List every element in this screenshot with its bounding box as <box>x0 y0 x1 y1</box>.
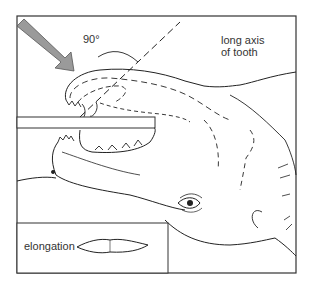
long-axis-label: long axis of tooth <box>221 34 281 58</box>
lower-teeth <box>95 140 142 150</box>
chin-line <box>62 152 140 175</box>
lower-incisors <box>58 135 74 142</box>
nose-dot <box>51 170 55 174</box>
xray-beam-arrow-icon <box>17 19 74 71</box>
mouth-interior <box>80 128 156 153</box>
long-axis-label-line1: long axis <box>221 34 281 46</box>
upper-jaw-outline <box>65 69 296 100</box>
long-axis-label-line2: of tooth <box>221 46 281 58</box>
film-plate <box>17 117 155 128</box>
skull-dashes <box>204 120 254 190</box>
inset-label: elongation <box>24 240 75 252</box>
upper-jaw-root-dashes <box>70 78 230 120</box>
fur-strokes <box>278 164 292 230</box>
angle-arc <box>98 52 138 62</box>
canine-root-dashes <box>78 86 126 102</box>
lower-head-outline <box>165 220 296 256</box>
head-right-outline <box>230 95 296 175</box>
upper-canine <box>80 102 97 118</box>
table-surface <box>17 177 56 181</box>
angle-label: 90° <box>83 33 100 45</box>
